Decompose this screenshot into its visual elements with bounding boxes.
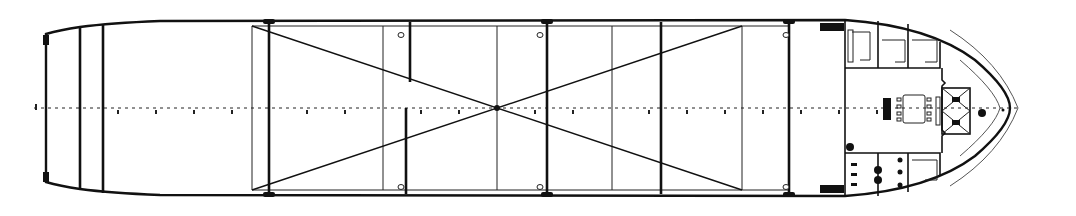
centerline [34,104,1020,110]
stern-section [43,25,103,193]
anchor-icon [978,109,986,117]
stair-icon [883,98,891,120]
windlass-box [942,88,970,134]
ship-deck-plan [0,0,1076,216]
dining-table [903,95,925,123]
